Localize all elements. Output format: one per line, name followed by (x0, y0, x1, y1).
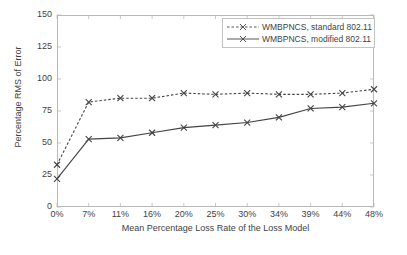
legend-sample-dashed-line (226, 21, 260, 33)
data-point-marker (54, 176, 60, 182)
legend-item-standard: WMBPNCS, standard 802.11 (226, 21, 371, 33)
y-tick-label: 150 (2, 10, 52, 19)
chart-legend: WMBPNCS, standard 802.11 WMBPNCS, modifi… (222, 18, 375, 48)
legend-label-modified: WMBPNCS, modified 802.11 (260, 33, 371, 45)
legend-item-modified: WMBPNCS, modified 802.11 (226, 33, 371, 45)
x-axis-title: Mean Percentage Loss Rate of the Loss Mo… (57, 223, 374, 233)
series-layer (54, 86, 377, 182)
y-tick-label: 75 (2, 106, 52, 115)
legend-label-standard: WMBPNCS, standard 802.11 (260, 21, 372, 33)
legend-sample-solid-line (226, 33, 260, 45)
y-tick-label: 125 (2, 42, 52, 51)
series-line-0 (57, 89, 374, 165)
x-tick-label: 48% (354, 209, 394, 219)
series-line-1 (57, 103, 374, 179)
y-tick-label: 100 (2, 74, 52, 83)
y-tick-label: 25 (2, 170, 52, 179)
y-axis-title: Percentage RMS of Error (13, 17, 23, 177)
y-tick-label: 50 (2, 138, 52, 147)
data-point-marker (54, 162, 60, 168)
data-point-marker (371, 86, 377, 92)
data-point-marker (339, 90, 345, 96)
chart-figure: 0255075100125150 Percentage RMS of Error… (0, 0, 407, 255)
x-axis-tick-labels: 0%7%11%16%20%25%30%34%39%44%48% (0, 209, 407, 223)
